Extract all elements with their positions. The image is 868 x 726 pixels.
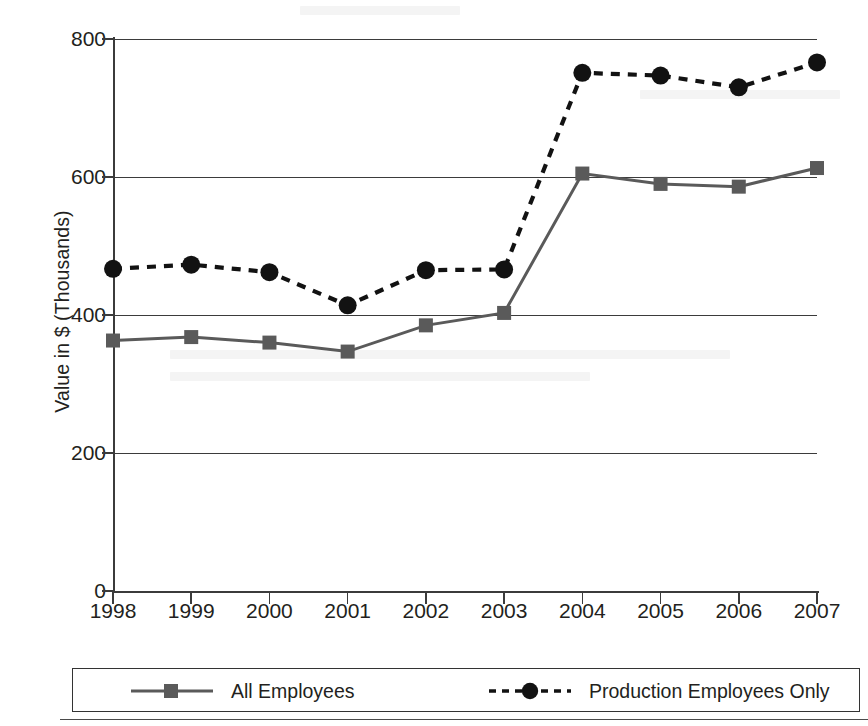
data-point-production-employees-2000 — [260, 263, 278, 281]
x-tick-label-2007: 2007 — [772, 600, 862, 621]
data-point-all-employees-1998 — [106, 334, 120, 348]
y-tick-label-600: 600 — [18, 166, 106, 187]
legend-label-production-employees: Production Employees Only — [589, 680, 830, 703]
legend-item-all-employees[interactable]: All Employees — [129, 669, 355, 713]
data-point-production-employees-2004 — [573, 64, 591, 82]
series-layer — [113, 39, 817, 591]
x-tick-label-1998: 1998 — [68, 600, 158, 621]
legend-marker-circle-icon — [487, 681, 573, 701]
x-tick-label-2005: 2005 — [616, 600, 706, 621]
series-line-all-employees — [113, 168, 817, 352]
page-rule — [60, 719, 868, 720]
data-point-all-employees-2003 — [497, 306, 511, 320]
y-tick-label-0: 0 — [18, 580, 106, 601]
series-line-production-employees — [113, 62, 817, 305]
plot-area — [113, 39, 817, 591]
data-point-all-employees-2002 — [419, 318, 433, 332]
legend-item-production-employees[interactable]: Production Employees Only — [487, 669, 830, 713]
data-point-production-employees-1999 — [182, 256, 200, 274]
x-tick-label-1999: 1999 — [146, 600, 236, 621]
data-point-all-employees-1999 — [184, 330, 198, 344]
data-point-all-employees-2000 — [262, 336, 276, 350]
scan-artifact — [300, 6, 460, 15]
x-tick-label-2003: 2003 — [459, 600, 549, 621]
data-point-all-employees-2004 — [575, 167, 589, 181]
chart-figure: Value in $ (Thousands) 0200400600800 199… — [0, 0, 868, 726]
x-tick-label-2006: 2006 — [694, 600, 784, 621]
data-point-all-employees-2001 — [341, 345, 355, 359]
x-axis-line — [113, 591, 819, 593]
data-point-production-employees-2006 — [730, 78, 748, 96]
data-point-production-employees-2002 — [417, 261, 435, 279]
data-point-production-employees-2003 — [495, 260, 513, 278]
x-tick-label-2000: 2000 — [224, 600, 314, 621]
y-tick-label-800: 800 — [18, 28, 106, 49]
y-tick-label-200: 200 — [18, 442, 106, 463]
legend-marker-square-icon — [129, 681, 215, 701]
data-point-all-employees-2007 — [810, 161, 824, 175]
data-point-production-employees-2005 — [652, 67, 670, 85]
x-tick-label-2004: 2004 — [537, 600, 627, 621]
data-point-production-employees-1998 — [104, 260, 122, 278]
legend-label-all-employees: All Employees — [231, 680, 355, 703]
data-point-all-employees-2006 — [732, 180, 746, 194]
x-tick-label-2002: 2002 — [381, 600, 471, 621]
chart-legend: All Employees Production Employees Only — [72, 668, 860, 712]
x-tick-label-2001: 2001 — [303, 600, 393, 621]
data-point-production-employees-2007 — [808, 53, 826, 71]
data-point-production-employees-2001 — [339, 296, 357, 314]
y-tick-label-400: 400 — [18, 304, 106, 325]
x-axis-tick-labels: 1998199920002001200220032004200520062007 — [113, 600, 868, 630]
data-point-all-employees-2005 — [654, 177, 668, 191]
